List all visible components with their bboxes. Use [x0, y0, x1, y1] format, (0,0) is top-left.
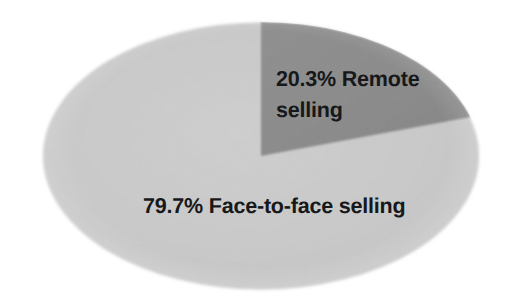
- pie-slice-label-remote-selling: 20.3% Remote selling: [276, 64, 446, 126]
- scan-grain-texture: [0, 0, 516, 308]
- pie-slice-label-face-to-face-selling-text: 79.7% Face-to-face selling: [143, 194, 405, 218]
- pie-slice-label-remote-selling-line1: 20.3% Remote: [276, 67, 419, 91]
- pie-chart-figure: 20.3% Remote selling 79.7% Face-to-face …: [0, 0, 516, 308]
- pie-chart-canvas: [0, 0, 516, 308]
- pie-slice-label-remote-selling-line2: selling: [276, 95, 446, 126]
- pie-slice-label-face-to-face-selling: 79.7% Face-to-face selling: [143, 192, 405, 220]
